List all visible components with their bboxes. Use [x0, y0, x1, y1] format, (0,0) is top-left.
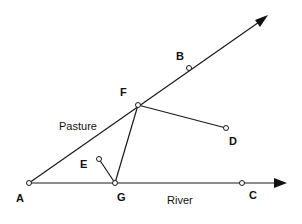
point-C [240, 181, 245, 186]
point-B [187, 66, 192, 71]
pasture-ray [29, 20, 262, 183]
label-A: A [16, 192, 24, 204]
pasture-label: Pasture [59, 120, 97, 132]
geometry-diagram: A G C F B D E Pasture River [0, 0, 302, 224]
point-E [97, 157, 102, 162]
point-D [224, 126, 229, 131]
segment-FD [138, 105, 226, 128]
point-G [113, 181, 118, 186]
pasture-arrow-icon [255, 15, 268, 27]
segment-FG [115, 105, 138, 183]
label-G: G [117, 191, 126, 203]
river-arrow-icon [274, 178, 287, 188]
label-F: F [120, 86, 127, 98]
label-C: C [249, 189, 257, 201]
point-F [136, 103, 141, 108]
label-E: E [80, 158, 87, 170]
point-A [27, 181, 32, 186]
river-label: River [167, 194, 193, 206]
label-B: B [176, 50, 184, 62]
label-D: D [229, 135, 237, 147]
segment-EG [99, 159, 115, 183]
